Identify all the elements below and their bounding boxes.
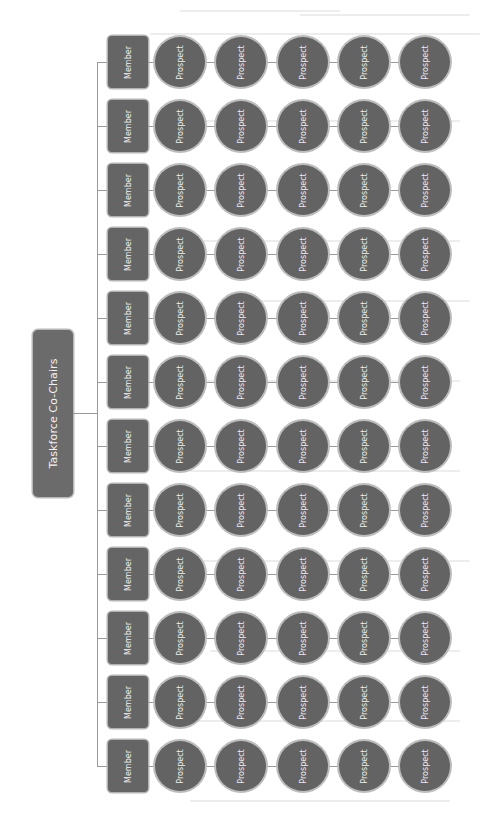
member-row: MemberProspectProspectProspectProspectPr… bbox=[97, 419, 457, 473]
prospect-label: Prospect bbox=[360, 429, 369, 463]
prospect-node: Prospect bbox=[400, 677, 450, 727]
prospect-label: Prospect bbox=[237, 621, 246, 655]
member-node: Member bbox=[108, 548, 148, 600]
prospect-label: Prospect bbox=[299, 109, 308, 143]
prospect-label: Prospect bbox=[421, 109, 430, 143]
prospect-node: Prospect bbox=[155, 549, 205, 599]
prospect-node: Prospect bbox=[400, 165, 450, 215]
prospect-node: Prospect bbox=[400, 421, 450, 471]
member-label: Member bbox=[124, 46, 133, 79]
prospect-label: Prospect bbox=[360, 45, 369, 79]
member-node: Member bbox=[108, 676, 148, 728]
prospect-node: Prospect bbox=[400, 485, 450, 535]
prospect-label: Prospect bbox=[237, 109, 246, 143]
prospect-node: Prospect bbox=[339, 357, 389, 407]
member-label: Member bbox=[124, 174, 133, 207]
prospect-label: Prospect bbox=[421, 749, 430, 783]
prospect-label: Prospect bbox=[299, 621, 308, 655]
member-row: MemberProspectProspectProspectProspectPr… bbox=[97, 355, 457, 409]
prospect-node: Prospect bbox=[278, 613, 328, 663]
prospect-label: Prospect bbox=[299, 237, 308, 271]
prospect-node: Prospect bbox=[339, 421, 389, 471]
prospect-node: Prospect bbox=[278, 357, 328, 407]
prospect-label: Prospect bbox=[421, 301, 430, 335]
prospect-label: Prospect bbox=[176, 237, 185, 271]
prospect-label: Prospect bbox=[176, 557, 185, 591]
prospect-node: Prospect bbox=[339, 101, 389, 151]
member-node: Member bbox=[108, 292, 148, 344]
prospect-node: Prospect bbox=[339, 677, 389, 727]
prospect-label: Prospect bbox=[176, 301, 185, 335]
branch-connector bbox=[97, 446, 108, 447]
member-row: MemberProspectProspectProspectProspectPr… bbox=[97, 99, 457, 153]
prospect-node: Prospect bbox=[400, 741, 450, 791]
prospect-label: Prospect bbox=[237, 173, 246, 207]
prospect-label: Prospect bbox=[237, 493, 246, 527]
branch-connector bbox=[97, 190, 108, 191]
member-row: MemberProspectProspectProspectProspectPr… bbox=[97, 291, 457, 345]
member-label: Member bbox=[124, 750, 133, 783]
root-label: Taskforce Co-Chairs bbox=[47, 358, 60, 468]
member-node: Member bbox=[108, 100, 148, 152]
prospect-label: Prospect bbox=[237, 45, 246, 79]
prospect-label: Prospect bbox=[360, 749, 369, 783]
prospect-label: Prospect bbox=[421, 429, 430, 463]
member-node: Member bbox=[108, 356, 148, 408]
prospect-label: Prospect bbox=[360, 109, 369, 143]
prospect-label: Prospect bbox=[299, 365, 308, 399]
prospect-node: Prospect bbox=[216, 421, 266, 471]
prospect-node: Prospect bbox=[155, 613, 205, 663]
prospect-node: Prospect bbox=[155, 37, 205, 87]
taskforce-co-chairs-node: Taskforce Co-Chairs bbox=[33, 330, 73, 497]
branch-connector bbox=[97, 574, 108, 575]
prospect-label: Prospect bbox=[237, 237, 246, 271]
prospect-node: Prospect bbox=[278, 165, 328, 215]
branch-connector bbox=[97, 318, 108, 319]
prospect-label: Prospect bbox=[237, 685, 246, 719]
prospect-node: Prospect bbox=[278, 37, 328, 87]
branch-connector bbox=[97, 62, 108, 63]
prospect-node: Prospect bbox=[400, 37, 450, 87]
prospect-label: Prospect bbox=[299, 45, 308, 79]
prospect-node: Prospect bbox=[278, 549, 328, 599]
prospect-label: Prospect bbox=[176, 749, 185, 783]
member-label: Member bbox=[124, 302, 133, 335]
prospect-node: Prospect bbox=[400, 101, 450, 151]
member-label: Member bbox=[124, 366, 133, 399]
prospect-node: Prospect bbox=[155, 229, 205, 279]
member-label: Member bbox=[124, 558, 133, 591]
prospect-node: Prospect bbox=[278, 485, 328, 535]
member-label: Member bbox=[124, 622, 133, 655]
prospect-label: Prospect bbox=[176, 173, 185, 207]
bleed-line bbox=[300, 14, 470, 16]
prospect-label: Prospect bbox=[360, 621, 369, 655]
prospect-node: Prospect bbox=[155, 357, 205, 407]
prospect-node: Prospect bbox=[400, 357, 450, 407]
member-row: MemberProspectProspectProspectProspectPr… bbox=[97, 611, 457, 665]
prospect-label: Prospect bbox=[299, 557, 308, 591]
prospect-node: Prospect bbox=[278, 229, 328, 279]
prospect-label: Prospect bbox=[237, 301, 246, 335]
prospect-node: Prospect bbox=[155, 165, 205, 215]
prospect-node: Prospect bbox=[400, 229, 450, 279]
prospect-label: Prospect bbox=[299, 493, 308, 527]
prospect-label: Prospect bbox=[360, 685, 369, 719]
prospect-node: Prospect bbox=[400, 293, 450, 343]
prospect-label: Prospect bbox=[299, 301, 308, 335]
prospect-node: Prospect bbox=[339, 229, 389, 279]
prospect-label: Prospect bbox=[421, 365, 430, 399]
prospect-label: Prospect bbox=[299, 173, 308, 207]
prospect-node: Prospect bbox=[278, 293, 328, 343]
prospect-label: Prospect bbox=[360, 493, 369, 527]
prospect-node: Prospect bbox=[278, 101, 328, 151]
prospect-node: Prospect bbox=[155, 485, 205, 535]
member-label: Member bbox=[124, 494, 133, 527]
prospect-node: Prospect bbox=[216, 613, 266, 663]
member-node: Member bbox=[108, 36, 148, 88]
member-node: Member bbox=[108, 612, 148, 664]
prospect-label: Prospect bbox=[176, 45, 185, 79]
prospect-node: Prospect bbox=[216, 357, 266, 407]
prospect-label: Prospect bbox=[360, 557, 369, 591]
branch-connector bbox=[97, 510, 108, 511]
member-node: Member bbox=[108, 228, 148, 280]
